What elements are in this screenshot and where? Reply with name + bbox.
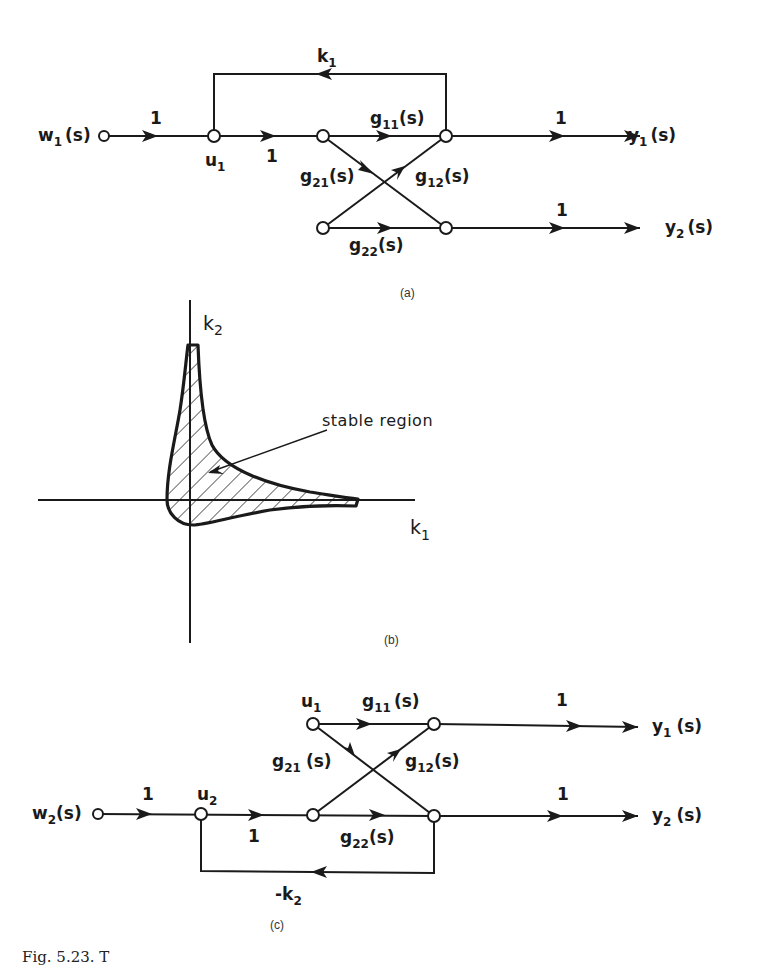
- region-pointer: [210, 430, 327, 472]
- label-g11: g11(s): [370, 108, 425, 132]
- stable-region: [167, 345, 358, 525]
- node-a-out-bottom: [440, 222, 452, 234]
- panel-b-label: (b): [384, 633, 399, 647]
- label-u1: u1: [301, 691, 321, 715]
- label-g22: g22(s): [349, 235, 404, 259]
- panel-c-label: (c): [270, 918, 284, 932]
- figure-caption: Fig. 5.23. T: [22, 948, 109, 965]
- node-w2: [93, 809, 103, 819]
- label-minus-k2: -k2: [275, 884, 302, 908]
- figure-canvas: w1(s) 1 u1 1 k1 g11(s) g21(s) g12(s) g22…: [0, 0, 758, 965]
- node-a-out-top: [440, 130, 452, 142]
- gain-label: 1: [266, 146, 278, 166]
- label-y2: y2(s): [665, 217, 713, 241]
- label-u1: u1: [205, 150, 225, 174]
- label-g21: g21(s): [272, 751, 332, 775]
- label-g11: g11(s): [362, 691, 420, 715]
- label-g21: g21(s): [300, 166, 355, 190]
- node-u2: [195, 808, 207, 820]
- label-g22: g22(s): [340, 827, 395, 851]
- label-y2: y2(s): [652, 805, 702, 829]
- stable-region-label: stable region: [322, 411, 433, 430]
- node-c-out-top: [428, 718, 440, 730]
- gain-label: 1: [556, 690, 568, 710]
- gain-label: 1: [556, 200, 568, 220]
- gain-label: 1: [248, 826, 260, 846]
- label-k1: k1: [317, 46, 337, 70]
- gain-label: 1: [142, 784, 154, 804]
- label-k2-axis: k2: [203, 312, 223, 338]
- label-w1: w1(s): [38, 125, 91, 149]
- label-u2: u2: [197, 784, 217, 808]
- gain-label: 1: [555, 108, 567, 128]
- label-y1: y1(s): [652, 716, 702, 740]
- gain-label: 1: [150, 108, 162, 128]
- node-w1: [99, 131, 109, 141]
- label-g12: g12(s): [405, 751, 460, 775]
- node-a-mid-bottom: [317, 222, 329, 234]
- node-u1: [307, 718, 319, 730]
- panel-b-stability-plot: stable region k2 k1 (b): [38, 300, 433, 647]
- node-c-out-bottom: [428, 810, 440, 822]
- node-u1: [208, 130, 220, 142]
- panel-c-signal-flow-graph: w2(s) 1 u2 1 u1 g11(s) g21(s) g12(s) g22…: [32, 690, 702, 932]
- label-k1-axis: k1: [410, 516, 430, 543]
- label-y1: y1(s): [628, 125, 676, 149]
- label-g12: g12(s): [415, 166, 470, 190]
- node-a-mid-top: [317, 130, 329, 142]
- gain-label: 1: [557, 784, 569, 804]
- panel-a-label: (a): [400, 286, 415, 300]
- node-c-mid-bottom: [307, 809, 319, 821]
- panel-a-signal-flow-graph: w1(s) 1 u1 1 k1 g11(s) g21(s) g12(s) g22…: [38, 46, 713, 300]
- label-w2: w2(s): [32, 803, 82, 827]
